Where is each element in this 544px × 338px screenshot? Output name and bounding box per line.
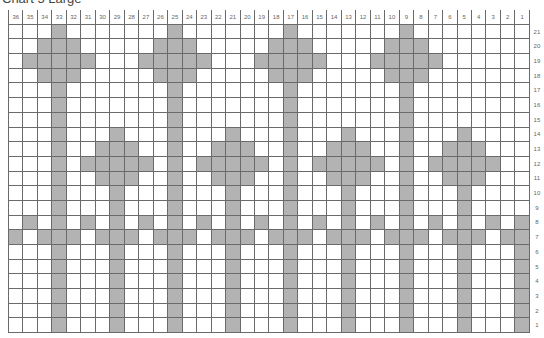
- empty-cell: [110, 112, 124, 127]
- empty-cell: [182, 142, 196, 157]
- shaded-cell: [226, 318, 240, 333]
- empty-cell: [356, 54, 370, 69]
- shaded-cell: [341, 156, 355, 171]
- empty-cell: [414, 156, 428, 171]
- empty-cell: [356, 289, 370, 304]
- empty-cell: [254, 142, 268, 157]
- empty-cell: [443, 83, 457, 98]
- empty-cell: [124, 54, 138, 69]
- shaded-cell: [428, 215, 442, 230]
- empty-cell: [240, 83, 254, 98]
- shaded-cell: [52, 303, 66, 318]
- empty-cell: [197, 230, 211, 245]
- empty-cell: [95, 112, 109, 127]
- empty-cell: [356, 83, 370, 98]
- shaded-cell: [457, 142, 471, 157]
- column-label: 33: [52, 10, 66, 24]
- empty-cell: [356, 68, 370, 83]
- empty-cell: [197, 200, 211, 215]
- empty-cell: [197, 274, 211, 289]
- shaded-cell: [168, 230, 182, 245]
- column-label: 34: [37, 10, 51, 24]
- shaded-cell: [226, 303, 240, 318]
- empty-cell: [327, 274, 341, 289]
- empty-cell: [211, 289, 225, 304]
- empty-cell: [124, 186, 138, 201]
- empty-cell: [23, 98, 37, 113]
- shaded-cell: [52, 186, 66, 201]
- shaded-cell: [356, 142, 370, 157]
- empty-cell: [428, 24, 442, 39]
- empty-cell: [9, 98, 23, 113]
- empty-cell: [428, 289, 442, 304]
- row-label: 1: [529, 318, 544, 333]
- shaded-cell: [66, 230, 80, 245]
- shaded-cell: [168, 127, 182, 142]
- column-label: 20: [240, 10, 254, 24]
- empty-cell: [182, 186, 196, 201]
- empty-cell: [66, 142, 80, 157]
- empty-cell: [443, 318, 457, 333]
- empty-cell: [443, 98, 457, 113]
- empty-cell: [500, 156, 514, 171]
- shaded-cell: [457, 274, 471, 289]
- shaded-cell: [399, 112, 413, 127]
- empty-cell: [240, 24, 254, 39]
- empty-cell: [385, 127, 399, 142]
- empty-cell: [472, 98, 486, 113]
- empty-cell: [327, 200, 341, 215]
- shaded-cell: [341, 274, 355, 289]
- empty-cell: [500, 215, 514, 230]
- empty-cell: [312, 98, 326, 113]
- empty-cell: [95, 39, 109, 54]
- empty-cell: [385, 215, 399, 230]
- empty-cell: [370, 186, 384, 201]
- grid-row: 15: [9, 112, 544, 127]
- shaded-cell: [23, 54, 37, 69]
- empty-cell: [414, 142, 428, 157]
- shaded-cell: [37, 230, 51, 245]
- empty-cell: [211, 186, 225, 201]
- shaded-cell: [110, 318, 124, 333]
- empty-cell: [81, 186, 95, 201]
- empty-cell: [370, 230, 384, 245]
- row-label: 5: [529, 259, 544, 274]
- empty-cell: [500, 303, 514, 318]
- shaded-cell: [399, 259, 413, 274]
- empty-cell: [298, 156, 312, 171]
- empty-cell: [240, 200, 254, 215]
- empty-cell: [443, 54, 457, 69]
- empty-cell: [312, 39, 326, 54]
- empty-cell: [269, 318, 283, 333]
- column-label: 30: [95, 10, 109, 24]
- column-label: 21: [226, 10, 240, 24]
- empty-cell: [428, 112, 442, 127]
- shaded-cell: [283, 127, 297, 142]
- row-label: 16: [529, 98, 544, 113]
- shaded-cell: [52, 142, 66, 157]
- column-label: 11: [370, 10, 384, 24]
- empty-cell: [124, 98, 138, 113]
- empty-cell: [515, 24, 529, 39]
- empty-cell: [428, 259, 442, 274]
- empty-cell: [139, 24, 153, 39]
- empty-cell: [81, 303, 95, 318]
- shaded-cell: [110, 171, 124, 186]
- empty-cell: [443, 215, 457, 230]
- empty-cell: [414, 215, 428, 230]
- grid-row: 14: [9, 127, 544, 142]
- shaded-cell: [486, 215, 500, 230]
- empty-cell: [486, 83, 500, 98]
- empty-cell: [500, 186, 514, 201]
- chart-title: Chart 5 Large: [2, 0, 82, 6]
- empty-cell: [269, 215, 283, 230]
- empty-cell: [153, 274, 167, 289]
- column-label: 3: [486, 10, 500, 24]
- empty-cell: [124, 318, 138, 333]
- shaded-cell: [110, 303, 124, 318]
- column-label: 7: [428, 10, 442, 24]
- empty-cell: [66, 24, 80, 39]
- empty-cell: [66, 318, 80, 333]
- empty-cell: [472, 127, 486, 142]
- shaded-cell: [226, 127, 240, 142]
